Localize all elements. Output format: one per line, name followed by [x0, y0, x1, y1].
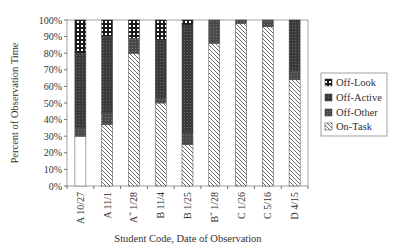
- segment-on-task: [209, 43, 220, 186]
- x-tick-label: D 4/15: [289, 192, 300, 220]
- segment-off-look: [75, 20, 86, 53]
- segment-off-other: [182, 133, 193, 145]
- segment-on-task: [289, 80, 300, 186]
- bar-d-4-15: [289, 20, 300, 186]
- legend: Off-Look Off-Active Off-Other On-Task: [321, 73, 387, 136]
- segment-off-other: [75, 128, 86, 136]
- y-tick-label: 30%: [44, 131, 62, 142]
- bar-c-5-16: [262, 20, 273, 186]
- y-tick-label: 80%: [44, 48, 62, 59]
- x-tick-label: C 1/26: [236, 192, 247, 219]
- y-tick-label: 0%: [49, 181, 62, 192]
- segment-on-task: [182, 145, 193, 187]
- bars: [75, 20, 300, 186]
- segment-off-other: [209, 20, 220, 43]
- y-tick-label: 60%: [44, 81, 62, 92]
- segment-off-other: [155, 98, 166, 103]
- y-tick-label: 70%: [44, 64, 62, 75]
- segment-off-look: [128, 20, 139, 38]
- y-axis: 0%10%20%30%40%50%60%70%80%90%100%: [39, 15, 67, 192]
- segment-on-task: [102, 125, 113, 186]
- x-axis-title: Student Code, Date of Observation: [114, 233, 262, 244]
- segment-on-task: [155, 103, 166, 186]
- bar-a-1-28: [128, 20, 139, 186]
- segment-on-task: [128, 53, 139, 186]
- segment-off-active: [182, 25, 193, 133]
- svg-text:Off-Active: Off-Active: [336, 92, 382, 103]
- segment-off-look: [155, 20, 166, 40]
- y-tick-label: 90%: [44, 31, 62, 42]
- bar-c-1-26: [236, 20, 247, 186]
- svg-text:Off-Look: Off-Look: [336, 77, 377, 88]
- segment-off-active: [75, 53, 86, 128]
- x-tick-label: A 10/27: [75, 192, 86, 224]
- x-axis: A 10/27A 11/1A* 1/28B 11/4B 1/25B* 1/28C…: [67, 186, 308, 224]
- segment-on-task: [236, 23, 247, 186]
- segment-off-other: [262, 20, 273, 27]
- bar-a-10-27: [75, 20, 86, 186]
- bar-b-11-4: [155, 20, 166, 186]
- segment-on-task: [75, 136, 86, 186]
- segment-off-active: [102, 37, 113, 113]
- segment-off-other: [289, 71, 300, 79]
- segment-off-look: [102, 20, 113, 37]
- x-tick-label: B 1/25: [182, 192, 193, 219]
- segment-off-active: [289, 20, 300, 71]
- on-task-swatch-icon: [325, 123, 332, 130]
- y-tick-label: 50%: [44, 98, 62, 109]
- svg-text:Off-Other: Off-Other: [336, 107, 378, 118]
- bar-b-1-25: [182, 20, 193, 186]
- bar-b-1-28: [209, 20, 220, 186]
- segment-off-other: [102, 113, 113, 125]
- segment-off-look: [182, 20, 193, 25]
- x-tick-label: A* 1/28: [127, 192, 139, 223]
- stacked-bar-chart: Percent of Observation Time 0%10%20%30%4…: [0, 0, 400, 246]
- off-active-swatch-icon: [325, 94, 332, 101]
- y-tick-label: 40%: [44, 114, 62, 125]
- y-tick-label: 10%: [44, 164, 62, 175]
- x-tick-label: A 11/1: [102, 192, 113, 219]
- svg-text:On-Task: On-Task: [336, 121, 373, 132]
- x-tick-label: C 5/16: [262, 192, 273, 219]
- x-tick-label: B 11/4: [155, 192, 166, 219]
- bar-a-11-1: [102, 20, 113, 186]
- x-tick-label: B* 1/28: [208, 192, 220, 222]
- y-tick-label: 100%: [39, 15, 62, 26]
- segment-off-other: [128, 38, 139, 53]
- segment-on-task: [262, 27, 273, 186]
- segment-off-active: [155, 40, 166, 98]
- segment-off-other: [236, 20, 247, 23]
- off-look-swatch-icon: [325, 79, 332, 86]
- y-tick-label: 20%: [44, 147, 62, 158]
- off-other-swatch-icon: [325, 109, 332, 116]
- y-axis-title: Percent of Observation Time: [9, 42, 20, 163]
